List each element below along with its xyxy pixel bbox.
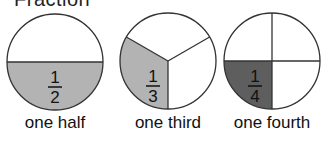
label-one-half: one half [0, 113, 110, 133]
denominator-half: 2 [50, 88, 59, 107]
label-one-fourth: one fourth [217, 113, 327, 133]
circle-one-third: 1 3 [120, 13, 216, 109]
numerator-half: 1 [50, 68, 59, 87]
numerator-fourth: 1 [250, 67, 259, 86]
denominator-fourth: 4 [250, 87, 259, 106]
circle-one-half: 1 2 [7, 14, 103, 110]
denominator-third: 3 [148, 87, 157, 106]
numerator-third: 1 [148, 67, 157, 86]
label-one-third: one third [113, 113, 223, 133]
circle-one-fourth: 1 4 [224, 13, 320, 109]
